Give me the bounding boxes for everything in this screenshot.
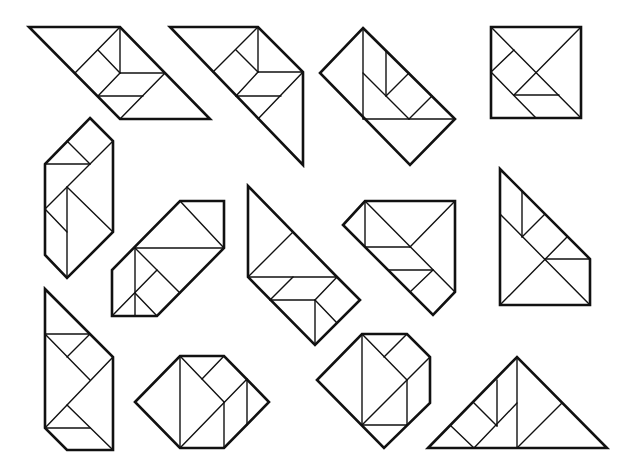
tangram-shape-pentagon-right <box>343 201 455 315</box>
tangram-shape-hexagon-tall-left <box>45 118 113 278</box>
piece-edge <box>98 50 120 73</box>
piece-edge <box>236 50 258 72</box>
piece-edge <box>410 270 433 292</box>
tangram-shape-hexagon-slanted <box>112 201 224 316</box>
tangram-shape-kite-triangle <box>248 186 360 345</box>
shape-outline <box>248 186 360 345</box>
piece-edge <box>474 403 497 426</box>
piece-edge <box>491 50 514 72</box>
piece-edge <box>522 214 545 237</box>
shape-outline <box>320 28 455 165</box>
tangram-figure <box>0 0 640 474</box>
piece-edge <box>180 379 247 448</box>
piece-edge <box>202 356 224 379</box>
tangram-shape-big-triangle <box>428 357 607 448</box>
piece-edge <box>315 277 337 300</box>
piece-edge <box>384 334 407 357</box>
piece-edge <box>386 73 409 96</box>
piece-edge <box>315 300 337 323</box>
tangram-shape-trapezoid-tail <box>170 27 303 165</box>
piece-edge <box>180 201 224 248</box>
tangram-shape-square <box>491 27 581 118</box>
piece-edge <box>410 201 455 247</box>
tangram-shape-hexagon-bottom <box>135 356 269 448</box>
shape-outline <box>317 334 430 448</box>
piece-edge <box>451 426 474 448</box>
piece-edge <box>98 73 120 96</box>
piece-edge <box>517 403 562 448</box>
piece-edge <box>135 293 157 316</box>
tangram-shape-irregular-bottom-mid <box>317 334 430 448</box>
piece-edge <box>67 187 113 232</box>
piece-edge <box>67 334 90 357</box>
shape-outline <box>135 356 269 448</box>
tangram-shape-rectangle-diagonal <box>320 28 455 165</box>
piece-edge <box>270 277 293 300</box>
piece-edge <box>362 357 430 425</box>
shape-outline <box>500 169 590 305</box>
piece-edge <box>45 209 67 232</box>
piece-edge <box>409 96 432 119</box>
tangram-shape-right-trapezoid <box>500 169 590 305</box>
piece-edge <box>248 232 293 277</box>
piece-edge <box>236 72 258 96</box>
tangram-shape-tall-lower-left <box>45 289 113 450</box>
piece-edge <box>67 141 90 164</box>
